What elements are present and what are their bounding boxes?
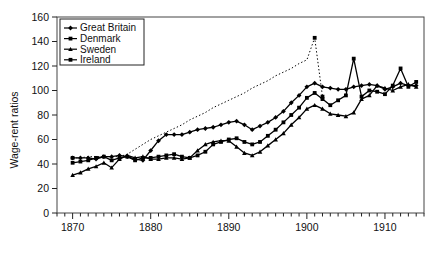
data-point [203,150,207,154]
y-axis-tick-label: 160 [31,11,49,23]
data-point [375,90,379,94]
data-point [336,98,340,102]
legend-label: Sweden [80,44,116,55]
y-axis-tick-label: 40 [37,158,49,170]
data-point [383,92,387,96]
x-axis-tick-label: 1880 [139,221,163,233]
x-axis-tick-label: 1890 [217,221,241,233]
data-point [321,95,325,99]
data-point [344,94,348,98]
data-point [110,158,114,162]
data-point [391,84,395,88]
legend-label: Denmark [80,33,122,44]
data-point [196,154,200,158]
data-point [313,91,317,95]
data-point [79,160,83,164]
chart-container: 1870188018901900191002040608010012014016… [0,0,438,262]
data-point [71,161,75,165]
y-axis-tick-label: 20 [37,182,49,194]
y-axis-tick-label: 0 [43,207,49,219]
data-point [266,134,270,138]
legend-box: Great BritainDenmarkSwedenIreland [60,19,144,65]
data-point [172,152,176,156]
y-axis-tick-label: 80 [37,109,49,121]
data-point [313,36,317,40]
data-point [305,96,309,100]
data-point [297,106,301,110]
y-axis-tick-label: 120 [31,60,49,72]
y-axis-tick-label: 100 [31,84,49,96]
data-point [235,136,239,140]
legend-label: Ireland [80,54,111,65]
data-point [282,120,286,124]
data-point [328,103,332,107]
data-point [289,113,293,117]
y-axis-title: Wage-rent ratios [8,91,20,168]
wage-rent-ratios-line-chart: 1870188018901900191002040608010012014016… [0,0,438,262]
data-point [69,58,73,62]
data-point [250,143,254,147]
data-point [352,57,356,61]
data-point [367,89,371,93]
data-point [69,37,73,41]
data-point [258,140,262,144]
x-axis-tick-label: 1900 [295,221,319,233]
data-point [71,156,75,160]
data-point [86,158,90,162]
y-axis-tick-label: 60 [37,133,49,145]
legend-label: Great Britain [80,22,136,33]
data-point [414,80,418,84]
x-axis-tick-label: 1910 [373,221,397,233]
x-axis-tick-label: 1870 [61,221,85,233]
data-point [243,140,247,144]
data-point [399,67,403,71]
y-axis-tick-label: 140 [31,35,49,47]
data-point [274,128,278,132]
